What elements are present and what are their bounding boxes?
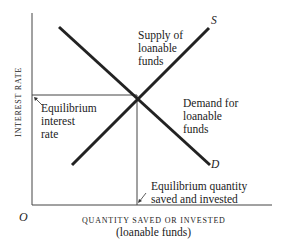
equilibrium-rate-label: Equilibrium interest rate — [41, 102, 97, 141]
supply-label-line: Supply of — [138, 29, 183, 42]
equilibrium-rate-label-line: rate — [41, 128, 97, 141]
supply-label-line: funds — [138, 55, 183, 68]
demand-label: Demand for loanable funds — [183, 97, 238, 136]
x-axis-sublabel: (loanable funds) — [116, 226, 191, 239]
demand-label-line: Demand for — [183, 97, 238, 110]
equilibrium-rate-label-line: Equilibrium — [41, 102, 97, 115]
equilibrium-rate-label-line: interest — [41, 115, 97, 128]
quantity-pointer-arrowhead — [138, 199, 142, 203]
supply-label: Supply of loanable funds — [138, 29, 183, 68]
y-axis-label: INTEREST RATE — [14, 67, 23, 137]
equilibrium-quantity-label: Equilibrium quantity saved and invested — [151, 180, 247, 206]
demand-label-line: funds — [183, 123, 238, 136]
supply-curve-letter: S — [211, 14, 217, 27]
supply-label-line: loanable — [138, 42, 183, 55]
equilibrium-quantity-label-line: saved and invested — [151, 193, 247, 206]
demand-label-line: loanable — [183, 110, 238, 123]
equilibrium-quantity-label-line: Equilibrium quantity — [151, 180, 247, 193]
demand-curve-letter: D — [211, 158, 219, 171]
origin-label: O — [19, 211, 28, 224]
